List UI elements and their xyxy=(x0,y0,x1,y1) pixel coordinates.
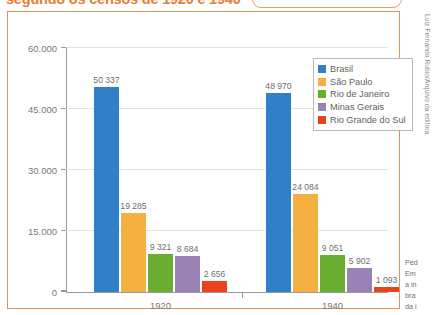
page-text-line: da i xyxy=(405,302,432,312)
legend-item-label: Brasil xyxy=(330,64,353,74)
bar: 48 970 xyxy=(266,93,291,292)
legend-item-label: Rio de Janeiro xyxy=(330,89,389,99)
gridline xyxy=(66,47,388,48)
y-tick-label: 45.000 xyxy=(28,103,57,114)
bar: 8 684 xyxy=(175,256,200,291)
image-credit-text: Luiz Fernando Rubio/Arquivo da editora xyxy=(424,14,431,134)
bar-value-label: 9 051 xyxy=(322,243,344,253)
x-tick-mark xyxy=(242,293,243,298)
bar-value-label: 50 337 xyxy=(93,75,119,85)
bar-value-label: 19 285 xyxy=(120,201,146,211)
page-text-line: Em xyxy=(405,269,432,279)
legend-swatch-icon xyxy=(318,78,326,86)
legend-item: Rio Grande do Sul xyxy=(318,113,406,126)
y-tick-label: 0 xyxy=(52,286,57,297)
x-axis-line xyxy=(66,292,388,293)
y-tick-label: 30.000 xyxy=(28,164,57,175)
bar: 1 093 xyxy=(374,287,399,291)
figure-frame: 015.00030.00045.00060.000 50 33719 2859 … xyxy=(7,11,400,309)
legend-item: São Paulo xyxy=(318,76,406,89)
image-credit: Luiz Fernando Rubio/Arquivo da editora xyxy=(420,14,432,184)
x-tick-label: 1940 xyxy=(322,300,343,311)
bar-value-label: 48 970 xyxy=(265,81,291,91)
legend-item: Brasil xyxy=(318,63,406,76)
page-text-line: bra xyxy=(405,291,432,301)
bar: 9 321 xyxy=(148,254,173,292)
y-tick-mark xyxy=(61,47,66,48)
y-axis-line xyxy=(66,48,67,293)
legend-swatch-icon xyxy=(318,90,326,98)
bar: 19 285 xyxy=(121,213,146,291)
bar-value-label: 2 656 xyxy=(204,269,226,279)
bar-value-label: 1 093 xyxy=(376,275,398,285)
x-tick-label: 1920 xyxy=(150,300,171,311)
legend-item: Minas Gerais xyxy=(318,101,406,114)
y-tick-mark xyxy=(61,290,66,291)
bar: 9 051 xyxy=(320,255,345,292)
y-tick-label: 60.000 xyxy=(28,43,57,54)
y-tick-label: 15.000 xyxy=(28,225,57,236)
page-text-line: Ped xyxy=(405,258,432,268)
y-tick-mark xyxy=(61,230,66,231)
y-tick-mark xyxy=(61,108,66,109)
bar-value-label: 24 084 xyxy=(292,182,318,192)
y-tick-mark xyxy=(61,169,66,170)
legend-item: Rio de Janeiro xyxy=(318,88,406,101)
legend-swatch-icon xyxy=(318,65,326,73)
page-text-line: a in xyxy=(405,280,432,290)
bar: 24 084 xyxy=(293,194,318,292)
bar-value-label: 8 684 xyxy=(177,244,199,254)
chart-legend: BrasilSão PauloRio de JaneiroMinas Gerai… xyxy=(313,58,413,131)
page-body-text: PedEma inbrada i194 xyxy=(405,258,432,315)
legend-item-label: São Paulo xyxy=(330,77,372,87)
page-title: segundo os censos de 1920 e 1940 xyxy=(6,0,256,9)
legend-swatch-icon xyxy=(318,116,326,124)
bar-value-label: 9 321 xyxy=(150,242,172,252)
bar: 2 656 xyxy=(202,281,227,292)
decorative-rounded-box xyxy=(252,0,402,8)
bar: 50 337 xyxy=(94,87,119,291)
legend-item-label: Minas Gerais xyxy=(330,102,384,112)
legend-item-label: Rio Grande do Sul xyxy=(330,115,406,125)
legend-swatch-icon xyxy=(318,103,326,111)
bar: 5 902 xyxy=(347,268,372,292)
bar-value-label: 5 902 xyxy=(349,256,371,266)
